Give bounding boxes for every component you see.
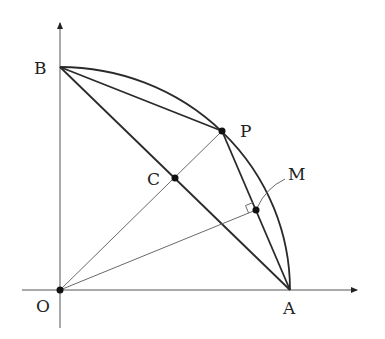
label-a: A bbox=[282, 298, 296, 318]
segment-om bbox=[60, 210, 256, 290]
geometry-figure: B P C M O A bbox=[0, 0, 385, 339]
label-m: M bbox=[288, 164, 305, 184]
label-p: P bbox=[240, 121, 251, 141]
label-b: B bbox=[34, 58, 47, 78]
segment-op bbox=[60, 131, 222, 290]
label-o: O bbox=[36, 296, 50, 316]
point-o bbox=[57, 287, 64, 294]
segment-bp bbox=[60, 67, 222, 131]
point-c bbox=[172, 175, 179, 182]
point-p bbox=[219, 128, 226, 135]
point-m bbox=[253, 207, 260, 214]
label-c: C bbox=[147, 169, 160, 189]
